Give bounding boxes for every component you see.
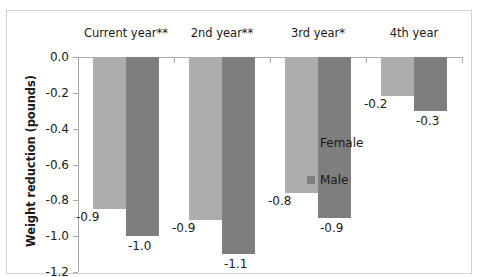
x-tick-mark xyxy=(270,57,271,63)
bar-female xyxy=(381,57,414,96)
legend-label: Male xyxy=(320,173,348,187)
bar-male xyxy=(126,57,159,236)
plot-area: 0.0-0.2-0.4-0.6-0.8-1.0-1.2 Current year… xyxy=(78,57,462,272)
x-tick-mark xyxy=(462,57,463,63)
bar-value-label: -1.0 xyxy=(128,239,151,253)
x-tick-mark xyxy=(366,57,367,63)
bar-value-label: -1.1 xyxy=(224,257,247,271)
bar-female xyxy=(189,57,222,220)
bar-value-label: -0.3 xyxy=(416,114,439,128)
y-axis-title: Weight reduction (pounds) xyxy=(24,66,38,256)
legend-item: Female xyxy=(307,133,387,152)
bar-value-label: -0.9 xyxy=(172,221,195,235)
bar-female xyxy=(93,57,126,209)
chart-figure: Weight reduction (pounds) 0.0-0.2-0.4-0.… xyxy=(0,0,481,277)
y-tick-mark xyxy=(73,165,78,166)
y-tick-mark xyxy=(73,129,78,130)
y-tick-label: -0.2 xyxy=(46,86,69,100)
y-tick-label: -0.6 xyxy=(46,158,69,172)
y-tick-label: -1.0 xyxy=(46,229,69,243)
y-tick-label: -0.4 xyxy=(46,122,69,136)
x-category-label: 2nd year** xyxy=(191,26,254,40)
bar-value-label: -0.8 xyxy=(268,194,291,208)
bar-value-label: -0.9 xyxy=(320,221,343,235)
x-category-label: 3rd year* xyxy=(291,26,345,40)
bar-value-label: -0.2 xyxy=(364,97,387,111)
x-category-label: Current year** xyxy=(84,26,168,40)
y-axis-line xyxy=(78,57,79,272)
x-tick-mark xyxy=(174,57,175,63)
chart-legend: FemaleMale xyxy=(307,133,387,207)
bar-value-label: -0.9 xyxy=(76,210,99,224)
y-tick-label: -1.2 xyxy=(46,265,69,277)
x-tick-mark xyxy=(78,57,79,63)
y-tick-mark xyxy=(73,93,78,94)
y-tick-mark xyxy=(73,272,78,273)
bar-male xyxy=(222,57,255,254)
legend-item: Male xyxy=(307,170,387,189)
bar-male xyxy=(414,57,447,111)
y-tick-label: -0.8 xyxy=(46,193,69,207)
x-category-label: 4th year xyxy=(390,26,438,40)
y-tick-mark xyxy=(73,200,78,201)
y-tick-mark xyxy=(73,236,78,237)
y-tick-label: 0.0 xyxy=(50,50,69,64)
legend-swatch-icon xyxy=(307,176,315,184)
legend-label: Female xyxy=(320,136,363,150)
legend-swatch-icon xyxy=(307,139,315,147)
